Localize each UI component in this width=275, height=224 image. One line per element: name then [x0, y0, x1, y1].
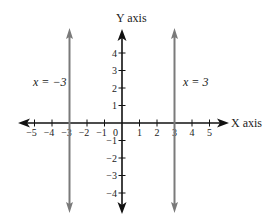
x-tick-label: −4	[44, 127, 55, 138]
y-tick-label: 4	[112, 48, 117, 59]
right-line-equation: x = 3	[182, 75, 208, 89]
x-tick-label: 2	[155, 127, 160, 138]
x-tick-label: 5	[207, 127, 212, 138]
y-axis-label: Y axis	[116, 11, 147, 25]
y-tick-label: −2	[106, 153, 117, 164]
x-tick-label: 1	[137, 127, 142, 138]
y-tick-label: −4	[106, 188, 117, 199]
y-tick-label: 1	[112, 100, 117, 111]
x-tick-label: −1	[96, 127, 107, 138]
x-tick-label: −2	[79, 127, 90, 138]
x-tick-label: −5	[26, 127, 37, 138]
origin-label: 0	[113, 127, 118, 138]
x-tick-label: 4	[190, 127, 195, 138]
x-axis-label: X axis	[231, 116, 262, 130]
x-axis: −5−4−3−2−112345	[18, 119, 229, 139]
y-axis: −4−3−2−11234	[106, 29, 126, 214]
y-tick-label: 2	[112, 83, 117, 94]
coordinate-plane: −5−4−3−2−112345 −4−3−2−11234 X axis Y ax…	[0, 0, 275, 224]
y-tick-label: 3	[112, 65, 117, 76]
y-tick-label: −3	[106, 170, 117, 181]
left-line-equation: x = −3	[32, 75, 67, 89]
